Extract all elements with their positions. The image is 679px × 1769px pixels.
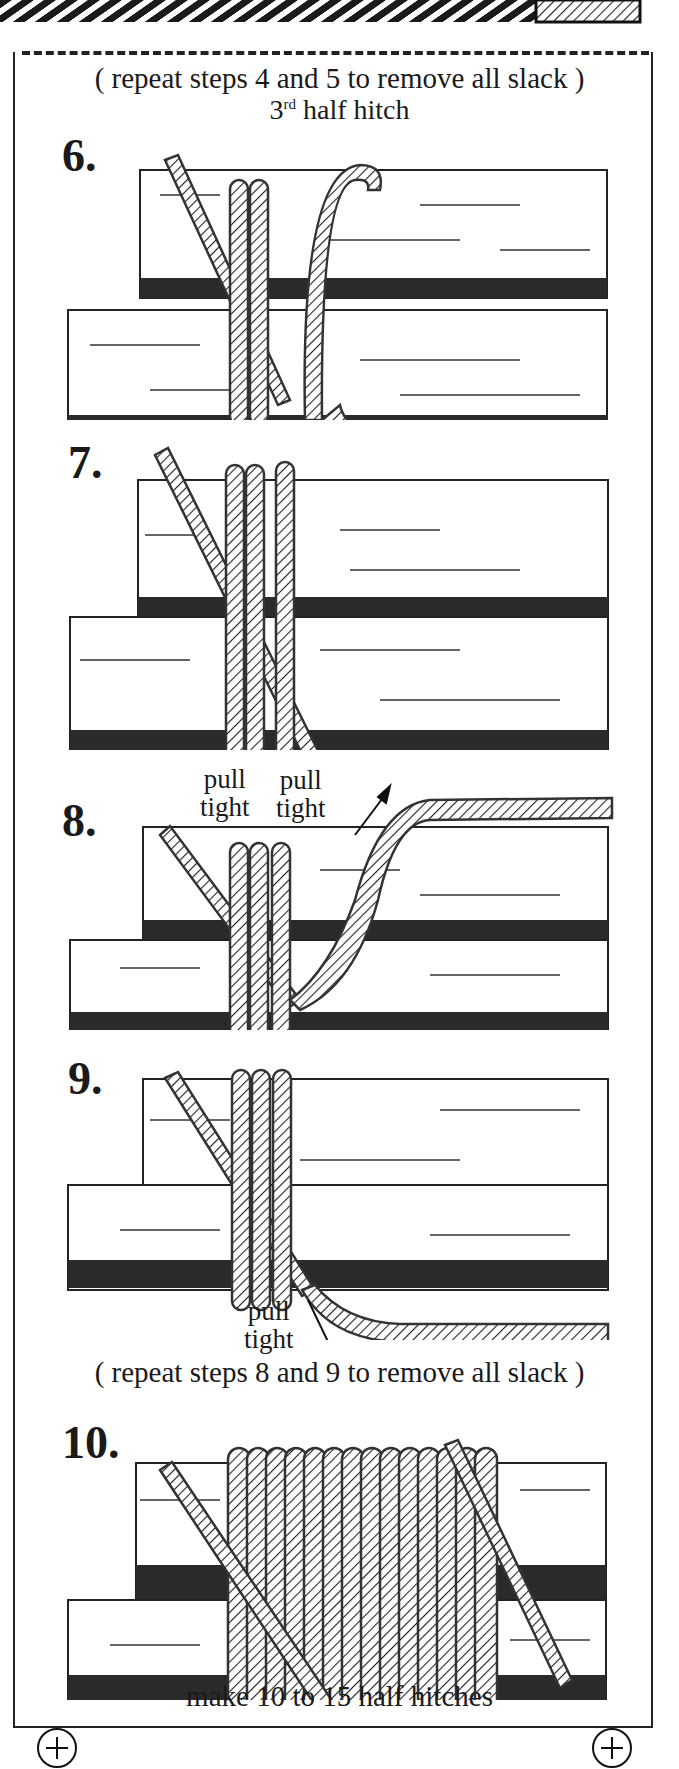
wood-board-icon [70,480,608,750]
wood-board-icon [68,170,607,420]
wood-board-icon [70,827,608,1030]
screw-plus-icon-left [36,1727,78,1769]
footer-half-hitches-note: make 10 to 15 half hitches [0,1682,679,1711]
screw-plus-icon-right [591,1727,633,1769]
label-line-1: pull [244,1297,294,1325]
step-6-illustration [0,120,679,420]
step-10-illustration [0,1400,679,1700]
subtitle-suffix: rd [283,96,296,112]
repeat-steps-8-9-note: ( repeat steps 8 and 9 to remove all sla… [0,1358,679,1387]
label-line-2: tight [244,1325,294,1353]
step-7-illustration [0,430,679,750]
wood-board-icon [68,1079,608,1290]
step-9-illustration [0,1040,679,1340]
top-rope-illustration [0,0,679,26]
step-9-pull-tight-label: pulltight [244,1297,294,1354]
step-8-illustration [0,760,679,1030]
repeat-steps-4-5-note: ( repeat steps 4 and 5 to remove all sla… [0,64,679,93]
